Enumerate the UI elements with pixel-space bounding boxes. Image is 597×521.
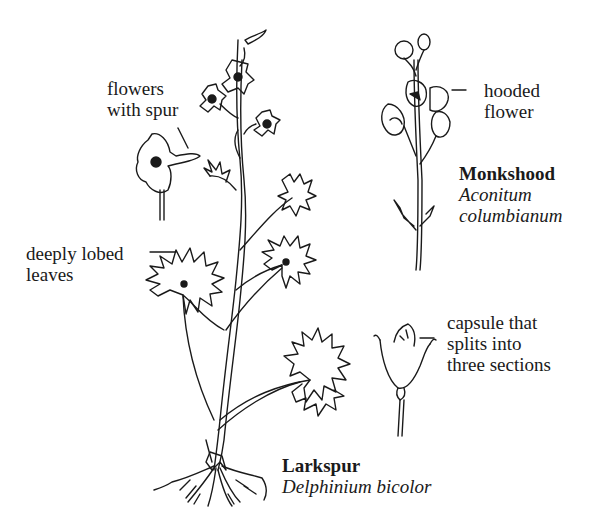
monkshood-common-name: Monkshood — [459, 163, 562, 184]
spurred-flower-detail — [136, 128, 200, 220]
capsule-drawing — [374, 324, 436, 436]
label-monkshood: Monkshood Aconitum columbianum — [459, 163, 562, 226]
label-larkspur: Larkspur Delphinium bicolor — [282, 455, 431, 497]
monkshood-scientific-name-1: Aconitum — [459, 184, 562, 205]
larkspur-scientific-name: Delphinium bicolor — [282, 476, 431, 497]
label-flowers-with-spur: flowers with spur — [107, 78, 178, 120]
larkspur-common-name: Larkspur — [282, 455, 431, 476]
monkshood-drawing — [382, 34, 466, 270]
monkshood-scientific-name-2: columbianum — [459, 205, 562, 226]
label-hooded-flower: hooded flower — [484, 80, 540, 122]
label-deeply-lobed-leaves: deeply lobed leaves — [26, 243, 124, 285]
label-capsule: capsule that splits into three sections — [447, 312, 551, 375]
